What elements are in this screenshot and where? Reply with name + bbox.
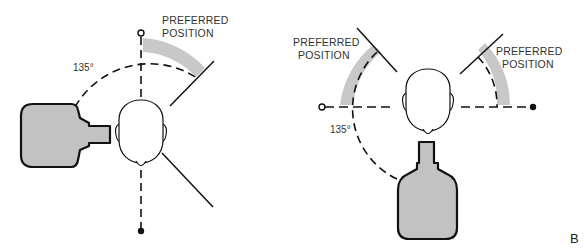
nose-icon [136,161,146,166]
open-circle-marker [319,104,325,110]
head-outline [406,69,450,131]
angle-label: 135° [73,62,94,73]
nose-icon [423,129,433,134]
preferred-label-line1: PREFERRED [162,14,229,26]
preferred-label-line2: POSITION [162,27,214,39]
right-preferred-label-line2: POSITION [502,58,554,70]
panel-b: PREFERRED POSITION PREFERRED POSITION 13… [293,28,579,246]
left-preferred-label-line1: PREFERRED [293,36,360,48]
filled-dot-marker [138,228,144,234]
open-circle-marker [138,30,144,36]
panel-letter-b: B [570,231,579,246]
angle-label: 135° [330,124,351,135]
bottle-below [398,142,457,239]
right-preferred-label-line1: PREFERRED [496,45,563,57]
filled-dot-marker [530,104,536,110]
head-outline [119,100,163,163]
head-top-view [402,69,453,134]
diagram-canvas: PREFERRED POSITION 135° PREFERRED [0,0,584,251]
left-preferred-label-line2: POSITION [298,49,350,61]
diagonal-line [162,153,213,207]
head-top-view [115,100,166,166]
panel-a: PREFERRED POSITION 135° [21,14,229,234]
bottle-left [21,104,110,167]
preferred-position-band [143,38,205,77]
